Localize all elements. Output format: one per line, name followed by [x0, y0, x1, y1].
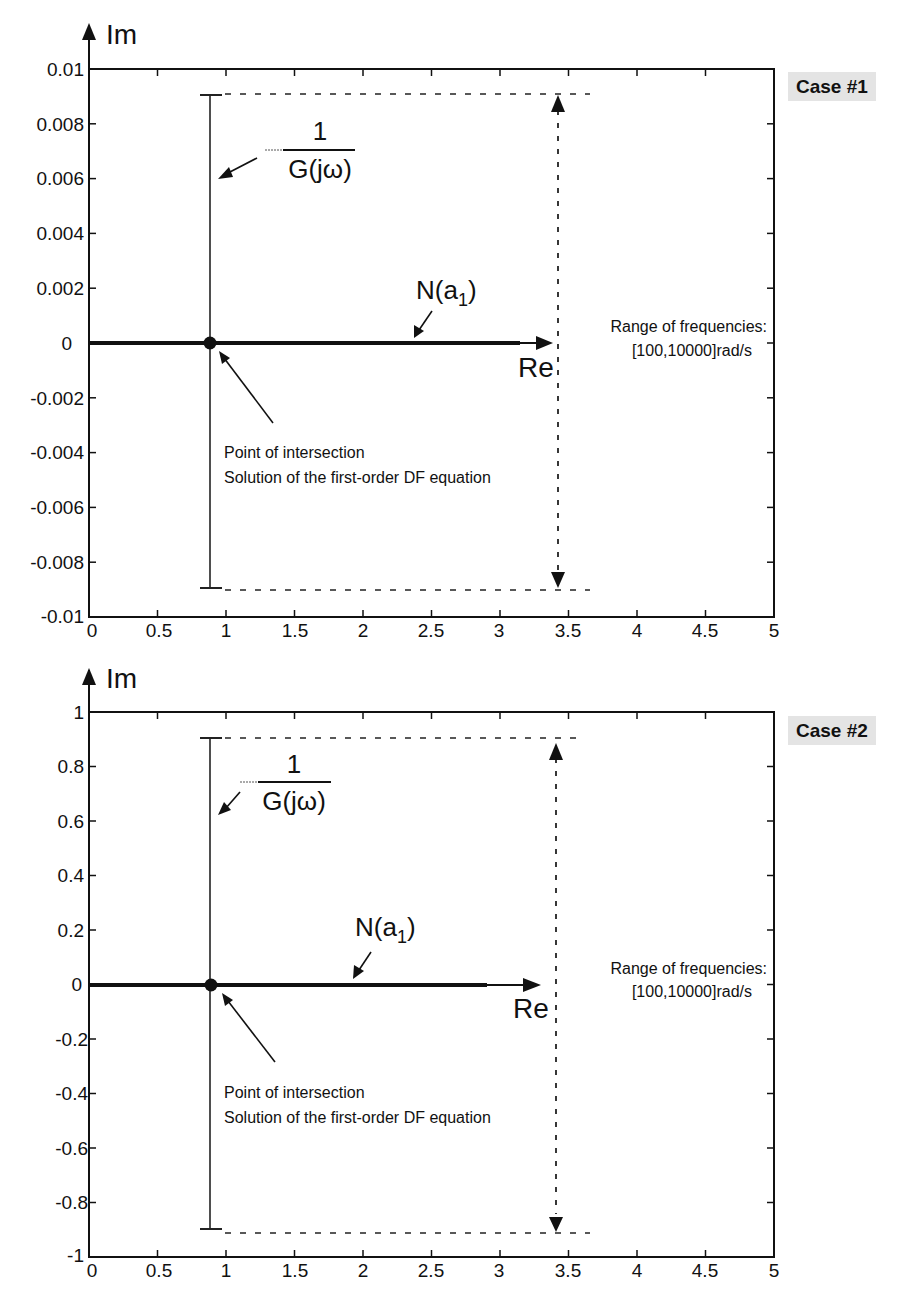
intersection-pointer-line: [224, 358, 273, 423]
y-tick-label: 1: [73, 702, 84, 723]
x-tick-label: 1.5: [282, 620, 308, 641]
x-tick-label: 2: [358, 1260, 369, 1281]
frequency-range-label-line1: Range of frequencies:: [610, 318, 767, 335]
arrow-down-icon: [549, 1217, 563, 1232]
n-a1-label: N(a1): [353, 912, 416, 979]
svg-text:1: 1: [313, 116, 327, 146]
x-tick-label: 0: [87, 1260, 98, 1281]
arrow-icon: [414, 325, 424, 338]
y-tick-label: -0.008: [30, 552, 84, 573]
im-axis-arrow-icon: [82, 23, 96, 40]
x-tick-label: 4.5: [692, 1260, 718, 1281]
arrow-up-icon: [549, 743, 563, 760]
frequency-range-label-line2: [100,10000]rad/s: [632, 983, 752, 1000]
im-axis-arrow-icon: [82, 668, 96, 685]
x-tick-label: 0.5: [146, 620, 172, 641]
arrow-icon: [219, 351, 230, 364]
intersection-pointer-line: [228, 1001, 275, 1062]
svg-text:1: 1: [287, 749, 301, 779]
x-tick-label: 0.5: [146, 1260, 172, 1281]
y-tick-label: -0.002: [30, 388, 84, 409]
x-tick-label: 4: [632, 620, 643, 641]
im-axis-label: Im: [106, 19, 137, 50]
plot-case-1: Im 0.01 0.008 0.006 0.004 0.002 0 -0.002…: [30, 19, 779, 641]
frequency-range-label-line2: [100,10000]rad/s: [632, 342, 752, 359]
x-axis-labels: 0 0.5 1 1.5 2 2.5 3 3.5 4 4.5 5: [87, 620, 780, 641]
y-tick-label: 0.2: [58, 920, 84, 941]
x-tick-label: 2.5: [418, 1260, 444, 1281]
x-tick-label: 3: [494, 620, 505, 641]
x-tick-label: 1.5: [282, 1260, 308, 1281]
re-axis-arrow-icon: [536, 336, 553, 350]
svg-text:G(jω): G(jω): [288, 154, 352, 184]
y-tick-label: 0: [61, 333, 72, 354]
inverse-g-label: 1 G(jω): [218, 749, 331, 816]
im-axis-label: Im: [106, 663, 137, 694]
intersection-label-line2: Solution of the first-order DF equation: [224, 1109, 491, 1126]
figure-canvas: Im 0.01 0.008 0.006 0.004 0.002 0 -0.002…: [0, 0, 915, 1311]
x-tick-label: 3.5: [555, 620, 581, 641]
n-a1-label: N(a1): [414, 275, 477, 338]
re-axis-label: Re: [513, 993, 549, 1024]
y-axis-labels: 0.01 0.008 0.006 0.004 0.002 0 -0.002 -0…: [30, 59, 84, 627]
x-tick-label: 2.5: [418, 620, 444, 641]
x-tick-label: 4: [632, 1260, 643, 1281]
x-tick-label: 2: [358, 620, 369, 641]
y-tick-label: -0.006: [30, 497, 84, 518]
y-axis-labels: 1 0.8 0.6 0.4 0.2 0 -0.2 -0.4 -0.6 -0.8 …: [55, 702, 88, 1266]
intersection-point: [205, 979, 218, 992]
arrow-icon: [218, 167, 233, 179]
y-tick-label: -0.2: [55, 1029, 88, 1050]
x-tick-label: 3.5: [555, 1260, 581, 1281]
y-tick-label: 0.004: [36, 223, 84, 244]
y-tick-label: 0.8: [58, 756, 84, 777]
case-badge-2: Case #2: [788, 716, 876, 745]
y-tick-label: -0.01: [41, 606, 84, 627]
svg-text:N(a1): N(a1): [416, 275, 477, 310]
y-tick-label: -0.6: [55, 1138, 88, 1159]
frequency-range-label-line1: Range of frequencies:: [610, 960, 767, 977]
intersection-label-line1: Point of intersection: [224, 444, 365, 461]
y-tick-label: 0.4: [58, 865, 85, 886]
y-tick-label: 0.01: [47, 59, 84, 80]
intersection-label-line2: Solution of the first-order DF equation: [224, 469, 491, 486]
y-tick-label: -0.4: [55, 1083, 88, 1104]
y-tick-label: -0.004: [30, 442, 84, 463]
arrow-down-icon: [551, 572, 565, 588]
x-tick-label: 0: [87, 620, 98, 641]
case-badge-1: Case #1: [788, 72, 876, 101]
y-tick-label: -0.8: [55, 1192, 88, 1213]
y-tick-label: 0.6: [58, 811, 84, 832]
y-tick-label: 0.006: [36, 168, 84, 189]
svg-text:N(a1): N(a1): [355, 912, 416, 947]
arrow-icon: [353, 965, 364, 979]
x-tick-label: 3: [494, 1260, 505, 1281]
re-axis-label: Re: [518, 352, 554, 383]
x-axis-labels: 0 0.5 1 1.5 2 2.5 3 3.5 4 4.5 5: [87, 1260, 780, 1281]
re-axis-arrow-icon: [523, 978, 541, 992]
svg-text:G(jω): G(jω): [262, 786, 326, 816]
plot-case-2: Im 1 0.8 0.6 0.4 0.2 0 -0.2 -0.4 -0.6 -0…: [55, 663, 779, 1281]
x-tick-label: 5: [769, 620, 780, 641]
arrow-up-icon: [551, 95, 565, 112]
y-tick-label: 0: [71, 974, 82, 995]
intersection-point: [204, 337, 217, 350]
y-tick-label: -1: [67, 1245, 84, 1266]
x-tick-label: 4.5: [692, 620, 718, 641]
intersection-label-line1: Point of intersection: [224, 1084, 365, 1101]
x-tick-label: 5: [769, 1260, 780, 1281]
x-tick-label: 1: [221, 1260, 232, 1281]
x-tick-label: 1: [221, 620, 232, 641]
y-tick-label: 0.008: [36, 114, 84, 135]
inverse-g-label: 1 G(jω): [218, 116, 355, 184]
y-tick-label: 0.002: [36, 278, 84, 299]
